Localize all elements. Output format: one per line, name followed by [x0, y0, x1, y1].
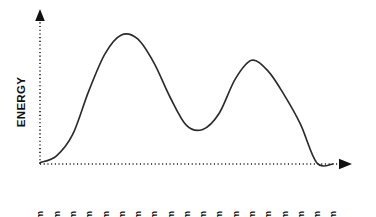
chart-canvas: ENERGY 6am7am8am9am10am11am12pm1pm2pm3pm…: [0, 0, 376, 217]
x-axis-tick-labels: 6am7am8am9am10am11am12pm1pm2pm3pm4pm5pm6…: [34, 211, 338, 217]
x-axis-tick-label: 5pm: [213, 211, 224, 217]
x-axis-tick-label: 4pm: [197, 211, 208, 217]
x-axis-tick-label: 10am: [100, 211, 111, 217]
x-axis-tick-label: 11pm: [311, 211, 322, 217]
x-axis-tick-label: 12pm: [132, 211, 143, 217]
x-axis-tick-label: 2pm: [165, 211, 176, 217]
x-axis-arrow-icon: [339, 159, 352, 169]
x-axis-tick-label: 10pm: [295, 211, 306, 217]
x-axis-tick-label: 6am: [34, 211, 45, 217]
x-axis-tick-label: 12am: [327, 211, 338, 217]
x-axis-tick-label: 1pm: [148, 211, 159, 217]
x-axis-tick-label: 6pm: [230, 211, 241, 217]
energy-line-chart: ENERGY 6am7am8am9am10am11am12pm1pm2pm3pm…: [0, 0, 376, 217]
energy-curve: [40, 34, 333, 166]
x-axis-tick-label: 3pm: [181, 211, 192, 217]
x-axis-tick-label: 7pm: [246, 211, 257, 217]
x-axis-tick-label: 9pm: [279, 211, 290, 217]
y-axis-arrow-icon: [35, 9, 45, 21]
x-axis-tick-label: 11am: [116, 211, 127, 217]
x-axis-tick-label: 9am: [83, 211, 94, 217]
x-axis-tick-label: 8pm: [262, 211, 273, 217]
x-axis-tick-label: 7am: [51, 211, 62, 217]
x-axis-tick-label: 8am: [67, 211, 78, 217]
y-axis-label: ENERGY: [15, 77, 27, 127]
